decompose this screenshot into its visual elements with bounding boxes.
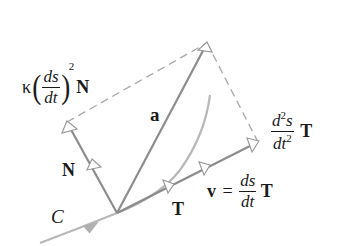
fraction-numerator: ds — [239, 172, 256, 192]
tangential-component-label: d2sdt2 T — [271, 110, 312, 152]
velocity-label: v = dsdt T — [207, 172, 273, 211]
unit-tangent-label: T — [172, 200, 184, 218]
ds-dt-fraction: dsdt — [239, 172, 256, 211]
equals-sign: = — [223, 181, 233, 201]
normal-component-vector — [69, 126, 117, 213]
acceleration-decomposition-diagram: κ(dsdt)2N a d2sdt2 T N T v = dsdt T C — [0, 0, 346, 246]
tangent-vector-symbol: T — [261, 181, 273, 201]
tangent-vector-symbol: T — [300, 121, 312, 141]
unit-normal-label: N — [62, 161, 75, 179]
normal-component-label: κ(dsdt)2N — [22, 68, 89, 107]
fraction-numerator: ds — [42, 68, 59, 88]
exponent: 2 — [69, 60, 75, 72]
den-sup: 2 — [286, 132, 292, 144]
normal-vector-symbol: N — [76, 77, 89, 97]
left-paren: ( — [32, 70, 41, 104]
acceleration-arrowhead-icon — [198, 42, 212, 52]
acceleration-label: a — [150, 105, 160, 124]
tangential-component-arrowhead-icon — [247, 138, 259, 152]
normal-component-arrowhead-icon — [62, 121, 77, 133]
right-paren: ) — [61, 70, 70, 104]
velocity-symbol: v — [207, 181, 216, 201]
dashed-line-right — [207, 43, 258, 142]
ds-dt-fraction: dsdt — [42, 68, 59, 107]
fraction-denominator: dt — [240, 192, 255, 211]
fraction-denominator: dt2 — [272, 132, 293, 153]
d2s-dt2-fraction: d2sdt2 — [271, 110, 294, 152]
den-dt: dt — [273, 133, 286, 152]
fraction-numerator: d2s — [271, 110, 294, 132]
kappa-symbol: κ — [22, 77, 31, 97]
num-s: s — [286, 111, 293, 130]
num-d: d — [272, 111, 281, 130]
fraction-denominator: dt — [43, 88, 58, 107]
curve-label: C — [51, 207, 64, 226]
